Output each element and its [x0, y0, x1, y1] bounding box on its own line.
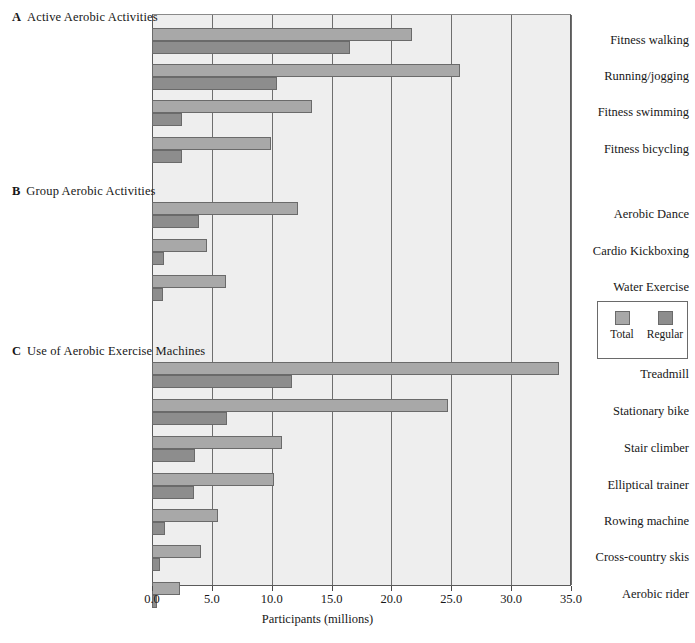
- bar-total-water-exercise: [152, 275, 226, 288]
- legend-swatch-regular-icon: [658, 311, 673, 325]
- bar-total-treadmill: [152, 362, 559, 375]
- x-axis-title: Participants (millions): [0, 612, 695, 627]
- legend-item-total: Total: [602, 311, 642, 341]
- x-tick-5.0: [212, 586, 213, 591]
- bar-total-fitness-bicycling: [152, 137, 271, 150]
- category-label-water-exercise: Water Exercise: [543, 280, 695, 294]
- gridline-20.0: [391, 15, 392, 585]
- bar-total-cross-country-skis: [152, 545, 201, 558]
- bar-regular-treadmill: [152, 375, 292, 388]
- legend: Total Regular: [597, 301, 688, 359]
- x-tick-20.0: [391, 586, 392, 591]
- bar-regular-elliptical-trainer: [152, 486, 194, 499]
- bar-regular-cross-country-skis: [152, 558, 160, 571]
- x-tick-0.0: [152, 586, 153, 591]
- bar-total-stationary-bike: [152, 399, 448, 412]
- gridline-30.0: [511, 15, 512, 585]
- category-label-stair-climber: Stair climber: [543, 441, 695, 455]
- x-tick-15.0: [332, 586, 333, 591]
- category-label-running-jogging: Running/jogging: [543, 69, 695, 83]
- category-label-treadmill: Treadmill: [543, 367, 695, 381]
- bar-regular-rowing-machine: [152, 522, 165, 535]
- bar-total-elliptical-trainer: [152, 473, 274, 486]
- aerobic-participation-figure: Fitness walkingRunning/joggingFitness sw…: [0, 0, 695, 643]
- bar-regular-cardio-kickboxing: [152, 252, 164, 265]
- x-tick-label-5.0: 5.0: [204, 592, 220, 606]
- bar-total-cardio-kickboxing: [152, 239, 207, 252]
- category-label-fitness-walking: Fitness walking: [543, 33, 695, 47]
- x-tick-10.0: [272, 586, 273, 591]
- category-label-fitness-bicycling: Fitness bicycling: [543, 142, 695, 156]
- panel-letter-a: A: [12, 10, 21, 24]
- x-tick-label-35.0: 35.0: [560, 592, 582, 606]
- bar-total-stair-climber: [152, 436, 282, 449]
- gridline-35.0: [571, 15, 572, 585]
- x-tick-35.0: [571, 586, 572, 591]
- panel-letter-b: B: [12, 184, 20, 198]
- x-tick-label-20.0: 20.0: [380, 592, 402, 606]
- category-label-stationary-bike: Stationary bike: [543, 404, 695, 418]
- legend-label-regular: Regular: [644, 328, 686, 341]
- category-label-fitness-swimming: Fitness swimming: [543, 105, 695, 119]
- bar-total-fitness-walking: [152, 28, 412, 41]
- category-label-cross-country-skis: Cross-country skis: [543, 550, 695, 564]
- panel-title-c: Use of Aerobic Exercise Machines: [27, 344, 205, 358]
- legend-item-regular: Regular: [644, 311, 686, 341]
- bar-regular-aerobic-dance: [152, 215, 199, 228]
- bar-total-aerobic-dance: [152, 202, 298, 215]
- panel-letter-c: C: [12, 344, 21, 358]
- panel-heading-b: BGroup Aerobic Activities: [12, 184, 156, 198]
- x-tick-label-10.0: 10.0: [261, 592, 283, 606]
- panel-title-b: Group Aerobic Activities: [26, 184, 155, 198]
- bar-regular-fitness-bicycling: [152, 150, 182, 163]
- bar-total-fitness-swimming: [152, 100, 312, 113]
- panel-title-a: Active Aerobic Activities: [27, 10, 158, 24]
- bar-total-rowing-machine: [152, 509, 218, 522]
- category-label-aerobic-dance: Aerobic Dance: [543, 207, 695, 221]
- legend-swatch-total-icon: [615, 311, 630, 325]
- bar-regular-water-exercise: [152, 288, 163, 301]
- x-tick-label-0.0: 0.0: [144, 592, 160, 606]
- bar-regular-fitness-walking: [152, 41, 350, 54]
- category-label-cardio-kickboxing: Cardio Kickboxing: [543, 244, 695, 258]
- gridline-25.0: [451, 15, 452, 585]
- bar-regular-stair-climber: [152, 449, 195, 462]
- x-tick-label-25.0: 25.0: [440, 592, 462, 606]
- x-tick-label-15.0: 15.0: [321, 592, 343, 606]
- gridline-15.0: [332, 15, 333, 585]
- x-tick-30.0: [511, 586, 512, 591]
- panel-heading-c: CUse of Aerobic Exercise Machines: [12, 344, 205, 358]
- x-tick-25.0: [451, 586, 452, 591]
- bar-regular-fitness-swimming: [152, 113, 182, 126]
- bar-regular-stationary-bike: [152, 412, 227, 425]
- bar-total-running-jogging: [152, 64, 460, 77]
- legend-label-total: Total: [602, 328, 642, 341]
- category-label-elliptical-trainer: Elliptical trainer: [543, 478, 695, 492]
- panel-heading-a: AActive Aerobic Activities: [12, 10, 158, 24]
- x-tick-label-30.0: 30.0: [500, 592, 522, 606]
- category-label-rowing-machine: Rowing machine: [543, 514, 695, 528]
- bar-regular-running-jogging: [152, 77, 277, 90]
